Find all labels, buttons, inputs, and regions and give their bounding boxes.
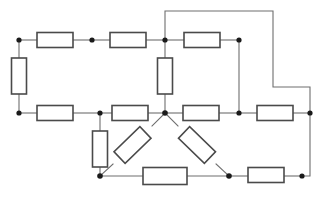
wire-top-outer-loop bbox=[165, 11, 310, 113]
wire-right-vertical-down bbox=[302, 113, 310, 176]
resistor-group bbox=[12, 33, 294, 185]
node-top-left[interactable] bbox=[16, 37, 21, 42]
resistor-bottom-1[interactable] bbox=[143, 168, 187, 185]
node-mid-right[interactable] bbox=[236, 110, 241, 115]
circuit-diagram-canvas bbox=[0, 0, 323, 206]
resistor-center-vertical[interactable] bbox=[158, 58, 173, 94]
resistor-mid-1[interactable] bbox=[37, 106, 73, 121]
node-center[interactable] bbox=[162, 110, 168, 116]
resistor-diagonal-right[interactable] bbox=[178, 127, 215, 164]
resistor-left-vertical[interactable] bbox=[12, 58, 27, 94]
node-top-center[interactable] bbox=[162, 37, 167, 42]
node-bottom-left[interactable] bbox=[97, 173, 103, 179]
circuit-schematic bbox=[0, 0, 323, 206]
resistor-mid-3[interactable] bbox=[183, 106, 219, 121]
resistor-top-2[interactable] bbox=[110, 33, 146, 48]
node-mid-left[interactable] bbox=[16, 110, 21, 115]
resistor-bottom-2[interactable] bbox=[248, 168, 284, 183]
node-top-right[interactable] bbox=[236, 37, 241, 42]
node-top-mid[interactable] bbox=[89, 37, 94, 42]
resistor-mid-2[interactable] bbox=[112, 106, 148, 121]
node-mid-leftcenter[interactable] bbox=[97, 110, 102, 115]
node-mid-far-right[interactable] bbox=[307, 110, 312, 115]
resistor-mid-4[interactable] bbox=[257, 106, 293, 121]
resistor-top-3[interactable] bbox=[184, 33, 220, 48]
node-bottom-far-right[interactable] bbox=[299, 173, 304, 178]
resistor-top-1[interactable] bbox=[37, 33, 73, 48]
resistor-diagonal-left[interactable] bbox=[114, 127, 151, 164]
resistor-lower-vertical[interactable] bbox=[93, 131, 108, 167]
node-bottom-right[interactable] bbox=[226, 173, 232, 179]
